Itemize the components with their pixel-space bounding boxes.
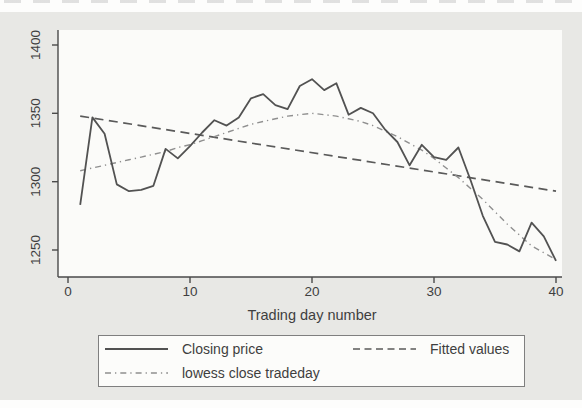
legend-label: Closing price <box>182 341 263 357</box>
y-tick-label: 1250 <box>28 235 43 265</box>
legend-item-lowess: lowess close tradeday <box>104 361 352 385</box>
x-tick-label: 0 <box>64 284 72 299</box>
scanned-page: 1250 1300 1350 1400 0 10 20 30 40 Tradin… <box>0 0 582 408</box>
solid-line-sample-icon <box>104 346 169 352</box>
x-axis-title: Trading day number <box>247 307 376 323</box>
legend-label: Fitted values <box>430 341 509 357</box>
y-tick-labels: 1250 1300 1350 1400 <box>28 30 43 265</box>
legend-item-closing-price: Closing price <box>104 337 352 361</box>
y-tick-label: 1400 <box>28 30 43 60</box>
x-tick-label: 20 <box>304 284 319 299</box>
legend-column-1: Closing price lowess close tradeday <box>104 337 352 385</box>
x-axis <box>58 277 562 283</box>
legend-label: lowess close tradeday <box>182 365 320 381</box>
x-tick-label: 10 <box>182 284 197 299</box>
y-axis <box>52 30 58 277</box>
x-tick-label: 30 <box>426 284 441 299</box>
x-tick-labels: 0 10 20 30 40 <box>64 284 563 299</box>
plot-area <box>58 30 562 277</box>
legend-column-2: Fitted values <box>352 337 524 385</box>
y-tick-label: 1300 <box>28 167 43 197</box>
x-tick-label: 40 <box>548 284 563 299</box>
dashed-line-sample-icon <box>352 346 417 352</box>
legend: Closing price lowess close tradeday Fitt… <box>98 335 525 387</box>
dash-dot-line-sample-icon <box>104 370 169 376</box>
y-tick-label: 1350 <box>28 98 43 128</box>
legend-item-fitted-values: Fitted values <box>352 337 524 361</box>
